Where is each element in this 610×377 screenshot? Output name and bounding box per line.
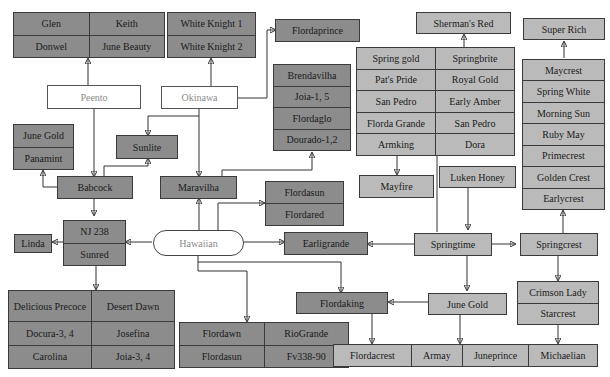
node-june-gold: June Gold: [428, 293, 507, 315]
node-sunred: Sunred: [64, 244, 125, 266]
node-june-gold-panamint-group: June Gold Panamint: [13, 124, 74, 170]
node-linda: Linda: [14, 234, 52, 253]
node-glen-group: GlenKeith DonwelJune Beauty: [13, 12, 165, 58]
node-joia-1-5: Joia-1, 5: [274, 87, 350, 108]
node-white-knight-2: White Knight 2: [168, 36, 255, 58]
node-armay: Armay: [411, 345, 462, 366]
node-maycrest: Maycrest: [523, 60, 604, 80]
node-joia-3-4: Joia-3, 4: [91, 346, 174, 368]
node-shermans-red: Sherman's Red: [416, 12, 511, 34]
node-crimson-starcrest-group: Crimson Lady Starcrest: [517, 281, 599, 325]
node-san-pedro-2: San Pedro: [435, 113, 514, 134]
node-brendavilha-group: Brendavilha Joia-1, 5 Flordaglo Dourado-…: [273, 64, 351, 151]
node-maycrest-group: Maycrest Spring White Morning Sun Ruby M…: [522, 59, 605, 210]
node-spring-gold: Spring gold: [357, 48, 435, 69]
node-flordaglo: Flordaglo: [274, 108, 350, 129]
node-flordawn: Flordawn: [180, 323, 264, 345]
node-san-pedro: San Pedro: [357, 91, 435, 112]
node-luken-honey: Luken Honey: [439, 166, 516, 188]
node-flordawn-group: FlordawnRioGrande FlordasunFv338-90: [179, 322, 349, 368]
node-carolina: Carolina: [9, 346, 91, 368]
node-ruby-may: Ruby May: [523, 124, 604, 144]
node-maravilha: Maravilha: [160, 176, 237, 199]
node-hawaiian: Hawaiian: [153, 230, 244, 256]
node-sunlite: Sunlite: [116, 135, 178, 159]
node-super-rich: Super Rich: [523, 18, 605, 40]
node-riogrande: RioGrande: [264, 323, 349, 345]
node-bottom-group: Flordacrest Armay Juneprince Michaelian: [333, 344, 598, 367]
node-panamint: Panamint: [14, 148, 73, 170]
node-nj238-sunred-group: NJ 238 Sunred: [63, 220, 126, 266]
node-dourado-1-2: Dourado-1,2: [274, 130, 350, 151]
pedigree-diagram: GlenKeith DonwelJune Beauty White Knight…: [0, 0, 610, 377]
node-florda-grande: Florda Grande: [357, 113, 435, 134]
node-delicious-precoce: Delicious Precoce: [9, 291, 91, 321]
node-flordacrest: Flordacrest: [334, 345, 411, 366]
node-docura-3-4: Docura-3, 4: [9, 322, 91, 344]
node-armking: Armking: [357, 134, 435, 155]
node-springtime: Springtime: [414, 233, 492, 256]
node-desert-dawn: Desert Dawn: [91, 291, 174, 321]
node-spring-white: Spring White: [523, 81, 604, 101]
node-springcrest: Springcrest: [520, 233, 598, 256]
node-delicious-group: Delicious PrecoceDesert Dawn Docura-3, 4…: [8, 290, 175, 369]
node-starcrest: Starcrest: [518, 304, 598, 325]
node-brendavilha: Brendavilha: [274, 65, 350, 86]
node-primecrest: Primecrest: [523, 146, 604, 166]
node-june-gold-left: June Gold: [14, 125, 73, 147]
node-josefina: Josefina: [91, 322, 174, 344]
node-springbrite: Springbrite: [435, 48, 514, 69]
node-juneprince: Juneprince: [462, 345, 528, 366]
node-keith: Keith: [89, 13, 165, 35]
node-nj238: NJ 238: [64, 221, 125, 243]
node-flordasun-2: Flordasun: [180, 346, 264, 368]
node-earligrande: Earligrande: [284, 232, 368, 255]
node-okinawa: Okinawa: [161, 86, 238, 109]
node-flordaprince: Flordaprince: [275, 19, 360, 42]
node-flordasun-flordared-group: Flordasun Flordared: [265, 181, 344, 226]
node-earlycrest: Earlycrest: [523, 189, 604, 209]
node-morning-sun: Morning Sun: [523, 103, 604, 123]
node-white-knight-1: White Knight 1: [168, 13, 255, 35]
node-peento: Peento: [47, 85, 141, 109]
node-crimson-lady: Crimson Lady: [518, 282, 598, 303]
node-mayfire: Mayfire: [359, 175, 434, 198]
node-glen: Glen: [14, 13, 89, 35]
node-spring-gold-group: Spring goldSpringbrite Pat's PrideRoyal …: [356, 47, 515, 156]
node-flordaking: Flordaking: [296, 292, 388, 314]
node-royal-gold: Royal Gold: [435, 70, 514, 91]
node-dora: Dora: [435, 134, 514, 155]
node-pats-pride: Pat's Pride: [357, 70, 435, 91]
node-white-knight-group: White Knight 1 White Knight 2: [167, 12, 256, 58]
node-donwel: Donwel: [14, 36, 89, 58]
node-golden-crest: Golden Crest: [523, 167, 604, 187]
node-june-beauty: June Beauty: [89, 36, 165, 58]
node-flordared: Flordared: [266, 204, 343, 225]
node-early-amber: Early Amber: [435, 91, 514, 112]
node-flordasun: Flordasun: [266, 182, 343, 203]
node-michaelian: Michaelian: [528, 345, 597, 366]
node-babcock: Babcock: [57, 176, 133, 199]
